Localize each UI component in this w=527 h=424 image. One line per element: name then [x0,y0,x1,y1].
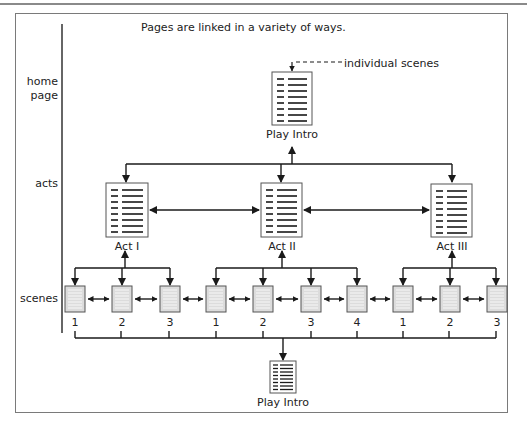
scene-page-icon-act2-2 [253,286,273,312]
act-label-1: Act I [97,240,157,253]
scene-page-icon-act2-4 [347,286,367,312]
scene-page-icon-act1-2 [112,286,132,312]
act-label-2: Act II [252,240,312,253]
hierarchy-diagram [0,0,527,424]
annotation-arrow [292,62,342,71]
scene-page-icon-act3-2 [440,286,460,312]
scene-page-icon-act1-3 [160,286,180,312]
scene-page-icon-act2-1 [206,286,226,312]
scene-number: 1 [65,316,85,329]
scene-number: 3 [487,316,507,329]
scene-number: 4 [347,316,367,329]
scene-number: 3 [301,316,321,329]
scene-page-icon-act3-1 [393,286,413,312]
home-acts-connector [126,147,452,182]
home-page-label: Play Intro [262,128,322,141]
scene-number: 2 [112,316,132,329]
scene-number: 1 [393,316,413,329]
act-label-3: Act III [422,240,482,253]
scene-number: 3 [160,316,180,329]
scene-page-icon-act2-3 [301,286,321,312]
scene-number: 2 [440,316,460,329]
act-page-icon-3 [431,184,472,237]
footer-page-label: Play Intro [253,396,313,409]
scene-page-icon-act3-3 [487,286,507,312]
act-page-icon-1 [106,183,148,237]
act-scene-connectors [75,251,496,285]
scene-number: 1 [206,316,226,329]
scene-bus-connector [75,331,496,360]
home-page-icon [272,72,312,125]
scene-page-icon-act1-1 [65,286,85,312]
scene-number: 2 [253,316,273,329]
act-page-icon-2 [261,183,302,237]
footer-page-icon [270,361,296,393]
